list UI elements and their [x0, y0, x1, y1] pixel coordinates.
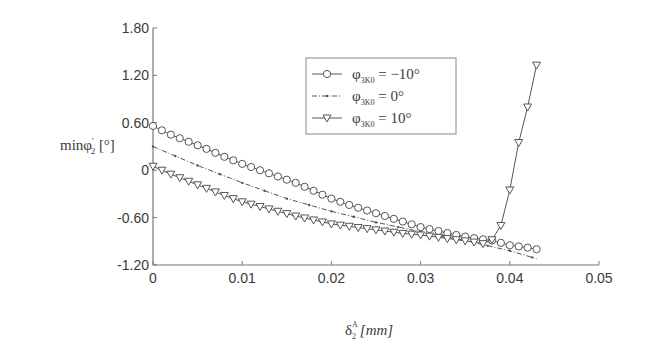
- x-tick-label: 0.05: [585, 270, 612, 286]
- circle-marker: [417, 223, 424, 230]
- dot-marker: [531, 256, 533, 258]
- triangle-marker: [185, 178, 193, 185]
- circle-marker: [323, 70, 330, 77]
- dot-marker: [174, 155, 176, 157]
- dot-marker: [241, 182, 243, 184]
- circle-marker: [319, 191, 326, 198]
- dot-marker: [330, 210, 332, 212]
- series-line: [153, 147, 537, 259]
- triangle-marker: [506, 187, 514, 194]
- dot-marker: [196, 164, 198, 166]
- dot-marker: [308, 204, 310, 206]
- circle-marker: [355, 204, 362, 211]
- circle-marker: [167, 131, 174, 138]
- y-tick-label: 1.20: [122, 67, 149, 83]
- x-tick-label: 0.04: [496, 270, 523, 286]
- dot-marker: [397, 226, 399, 228]
- circle-marker: [212, 149, 219, 156]
- circle-marker: [256, 167, 263, 174]
- circle-marker: [506, 242, 513, 249]
- circle-marker: [426, 225, 433, 232]
- circle-marker: [328, 195, 335, 202]
- circle-marker: [248, 163, 255, 170]
- triangle-marker: [203, 185, 211, 192]
- circle-marker: [533, 246, 540, 253]
- circle-marker: [194, 142, 201, 149]
- x-tick-label: 0.01: [229, 270, 256, 286]
- dot-marker: [286, 197, 288, 199]
- triangle-marker: [176, 175, 184, 182]
- triangle-marker: [158, 167, 166, 174]
- x-tick-label: 0: [149, 270, 157, 286]
- triangle-marker: [515, 140, 523, 147]
- circle-marker: [381, 212, 388, 219]
- dot-marker: [509, 250, 511, 252]
- circle-marker: [185, 138, 192, 145]
- triangle-marker: [497, 223, 505, 230]
- dot-marker: [326, 95, 328, 97]
- y-tick-label: -1.20: [117, 257, 149, 273]
- dot-marker: [263, 190, 265, 192]
- dot-marker: [375, 221, 377, 223]
- circle-marker: [310, 187, 317, 194]
- triangle-marker: [149, 163, 157, 170]
- circle-marker: [363, 207, 370, 214]
- triangle-marker: [194, 182, 202, 189]
- circle-marker: [337, 198, 344, 205]
- triangle-marker: [524, 104, 532, 111]
- dot-marker: [486, 244, 488, 246]
- circle-marker: [265, 170, 272, 177]
- circle-marker: [230, 157, 237, 164]
- dot-marker: [219, 173, 221, 175]
- dot-marker: [152, 145, 154, 147]
- circle-marker: [158, 127, 165, 134]
- x-tick-label: 0.02: [318, 270, 345, 286]
- y-tick-label: 1.80: [122, 20, 149, 36]
- x-axis-label: δ2A[mm]: [345, 320, 393, 341]
- circle-marker: [408, 221, 415, 228]
- circle-marker: [524, 244, 531, 251]
- circle-marker: [176, 135, 183, 142]
- chart: 1.801.200.600-0.60-1.2000.010.020.030.04…: [0, 0, 651, 356]
- legend: φ3K0 = −10°φ3K0 = 0°φ3K0 = 10°: [306, 58, 456, 134]
- circle-marker: [221, 153, 228, 160]
- triangle-marker: [167, 171, 175, 178]
- triangle-marker: [211, 189, 219, 196]
- circle-marker: [149, 122, 156, 129]
- triangle-marker: [533, 62, 541, 69]
- y-tick-label: -0.60: [117, 210, 149, 226]
- dot-marker: [353, 216, 355, 218]
- x-tick-label: 0.03: [407, 270, 434, 286]
- y-tick-label: 0: [141, 162, 149, 178]
- circle-marker: [239, 160, 246, 167]
- circle-marker: [390, 215, 397, 222]
- circle-marker: [435, 227, 442, 234]
- circle-marker: [203, 145, 210, 152]
- circle-marker: [283, 176, 290, 183]
- circle-marker: [399, 218, 406, 225]
- circle-marker: [372, 210, 379, 217]
- series-line: [153, 126, 537, 249]
- y-tick-label: 0.60: [122, 115, 149, 131]
- y-axis-label: minφ'2 [°]: [60, 136, 115, 156]
- circle-marker: [301, 183, 308, 190]
- circle-marker: [274, 173, 281, 180]
- circle-marker: [292, 179, 299, 186]
- circle-marker: [497, 239, 504, 246]
- circle-marker: [515, 243, 522, 250]
- circle-marker: [346, 201, 353, 208]
